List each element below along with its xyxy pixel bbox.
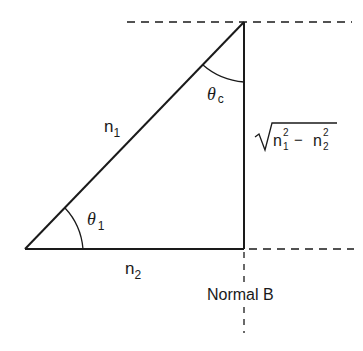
svg-text:−: −: [294, 131, 303, 148]
theta-1-arc: [65, 208, 83, 249]
theta-c-label: θc: [207, 84, 224, 106]
theta-c-arc: [203, 65, 244, 82]
svg-text:2: 2: [323, 127, 329, 138]
normal-b-label: Normal B: [207, 286, 274, 303]
svg-text:1: 1: [283, 141, 289, 152]
hypotenuse-label: n1: [104, 117, 120, 140]
diagram-canvas: n1 n2 θc θ1 n 2 1 − n 2 2 Normal B: [0, 0, 363, 351]
svg-text:2: 2: [323, 141, 329, 152]
theta-1-label: θ1: [87, 209, 105, 233]
svg-text:n: n: [273, 132, 282, 149]
base-label: n2: [125, 259, 141, 282]
hypotenuse-edge: [25, 22, 244, 249]
svg-text:2: 2: [283, 127, 289, 138]
vertical-edge-label: n 2 1 − n 2 2: [255, 123, 337, 152]
svg-text:n: n: [313, 132, 322, 149]
